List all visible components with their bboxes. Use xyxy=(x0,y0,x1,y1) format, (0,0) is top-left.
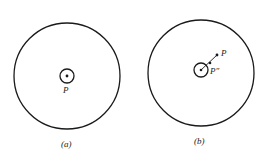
figure-b: P P″ (b) xyxy=(148,20,254,146)
diagram-canvas: P (a) P P″ (b) xyxy=(0,0,270,158)
outer-circle-b xyxy=(148,20,254,126)
label-p-double-prime: P″ xyxy=(209,66,219,76)
caption-a: (a) xyxy=(61,139,72,149)
label-p-a: P xyxy=(62,85,69,95)
center-point-a xyxy=(66,75,69,78)
caption-b: (b) xyxy=(194,136,205,146)
point-on-inner-circle xyxy=(209,62,212,65)
label-p-b: P xyxy=(220,48,227,58)
point-p-b xyxy=(216,54,219,57)
figure-a: P (a) xyxy=(14,23,120,149)
